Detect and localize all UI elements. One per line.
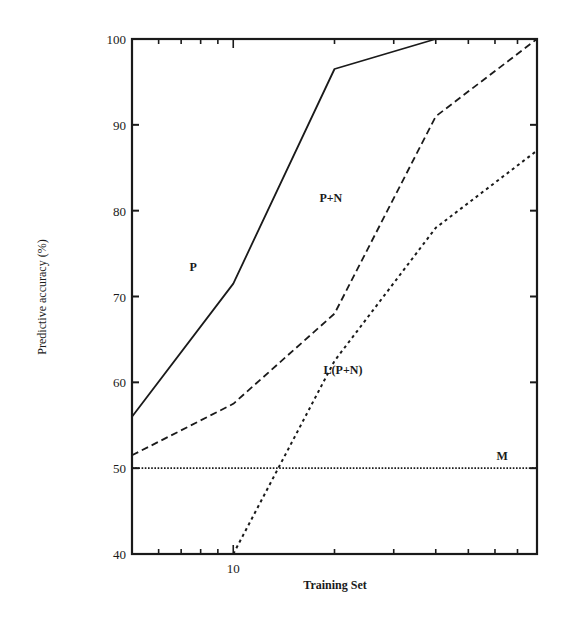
y-tick-label: 100 — [107, 32, 127, 47]
y-tick-label: 90 — [113, 118, 126, 133]
series-line-l-p-n — [233, 151, 537, 554]
y-axis-title: Predictive accuracy (%) — [35, 239, 49, 354]
series-label: P+N — [319, 191, 342, 205]
y-tick-label: 70 — [113, 290, 126, 305]
series-labels: PP+NL(P+N)M — [189, 191, 507, 463]
y-tick-label: 50 — [113, 461, 126, 476]
x-tick-label: 10 — [227, 561, 240, 576]
y-tick-label: 60 — [113, 375, 126, 390]
y-tick-label: 80 — [113, 204, 126, 219]
series-lines — [132, 39, 537, 554]
series-label: P — [189, 260, 196, 274]
series-label: M — [496, 449, 507, 463]
series-line-p-n — [132, 39, 537, 455]
x-axis-title: Training Set — [303, 578, 366, 592]
y-axis-ticks: 405060708090100 — [107, 32, 538, 562]
series-label: L(P+N) — [324, 363, 363, 377]
line-chart: 405060708090100 10 PP+NL(P+N)M Predictiv… — [0, 0, 563, 622]
series-line-p — [132, 39, 537, 417]
plot-frame — [132, 39, 537, 554]
y-tick-label: 40 — [113, 547, 126, 562]
